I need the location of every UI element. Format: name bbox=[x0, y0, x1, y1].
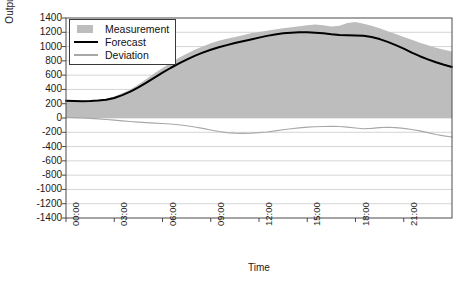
x-tick-label: 12:00 bbox=[263, 202, 274, 226]
x-axis-title: Time bbox=[66, 262, 452, 273]
x-tick-label: 06:00 bbox=[167, 202, 178, 226]
legend-item-measurement: Measurement bbox=[73, 22, 169, 35]
legend-item-forecast: Forecast bbox=[73, 35, 169, 48]
legend-item-deviation: Deviation bbox=[73, 48, 169, 61]
x-tick-label: 03:00 bbox=[118, 202, 129, 226]
x-tick-label: 15:00 bbox=[311, 202, 322, 226]
x-tick-label: 21:00 bbox=[408, 202, 419, 226]
legend-label-measurement: Measurement bbox=[105, 23, 169, 35]
x-tick-label: 00:00 bbox=[70, 202, 81, 226]
legend-swatch-deviation-icon bbox=[73, 49, 99, 60]
legend-label-forecast: Forecast bbox=[105, 36, 146, 48]
chart-container: Output (MW) 1400120010008006004002000-20… bbox=[0, 0, 472, 285]
x-tick-label: 09:00 bbox=[215, 202, 226, 226]
legend-swatch-measurement-icon bbox=[73, 23, 99, 34]
chart-legend: Measurement Forecast Deviation bbox=[69, 19, 176, 65]
legend-swatch-forecast-icon bbox=[73, 36, 99, 47]
x-tick-label: 18:00 bbox=[360, 202, 371, 226]
series-line-deviation bbox=[66, 117, 452, 137]
legend-label-deviation: Deviation bbox=[105, 49, 149, 61]
